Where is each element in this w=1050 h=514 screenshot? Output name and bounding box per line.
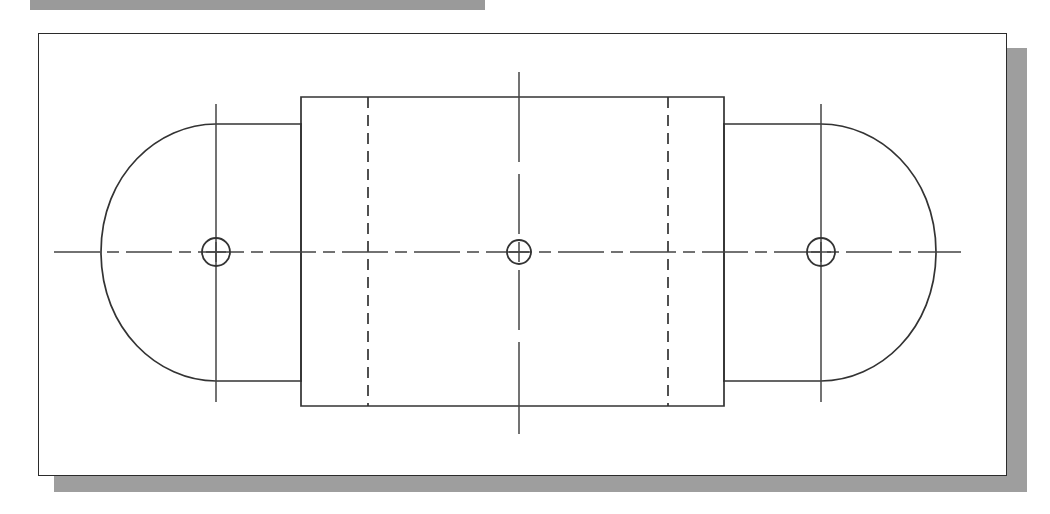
screenshot-root	[0, 0, 1050, 514]
left-hole-center-cross	[206, 242, 226, 262]
center-hole-center-cross	[509, 242, 529, 262]
drawing-sheet-frame	[38, 33, 1007, 476]
top-banner-strip	[30, 0, 485, 10]
right-hole-center-cross	[811, 242, 831, 262]
technical-drawing	[39, 34, 1006, 475]
